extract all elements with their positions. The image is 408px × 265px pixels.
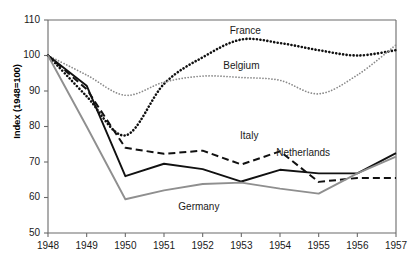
x-tick-label: 1954 bbox=[263, 240, 297, 251]
series-label-germany: Germany bbox=[178, 201, 219, 212]
x-tick-label: 1950 bbox=[108, 240, 142, 251]
series-line-netherlands bbox=[48, 56, 396, 182]
series-label-netherlands: Netherlands bbox=[276, 147, 330, 158]
y-tick-label: 50 bbox=[14, 227, 40, 238]
x-tick-label: 1951 bbox=[147, 240, 181, 251]
x-tick-label: 1955 bbox=[302, 240, 336, 251]
y-tick-label: 70 bbox=[14, 156, 40, 167]
x-tick-label: 1953 bbox=[224, 240, 258, 251]
y-tick-label: 110 bbox=[14, 14, 40, 25]
y-tick-label: 80 bbox=[14, 120, 40, 131]
x-tick-label: 1952 bbox=[186, 240, 220, 251]
series-line-belgium bbox=[48, 45, 396, 95]
x-tick-label: 1948 bbox=[31, 240, 65, 251]
chart-plot-area bbox=[0, 0, 408, 265]
series-label-france: France bbox=[230, 25, 261, 36]
y-tick-label: 90 bbox=[14, 85, 40, 96]
series-label-italy: Italy bbox=[240, 130, 258, 141]
series-line-france bbox=[48, 39, 396, 136]
x-tick-label: 1949 bbox=[70, 240, 104, 251]
x-tick-label: 1957 bbox=[379, 240, 408, 251]
chart-container: Index (1948=100) 50607080901001101948194… bbox=[0, 0, 408, 265]
x-tick-label: 1956 bbox=[340, 240, 374, 251]
axis-frame bbox=[48, 20, 396, 233]
y-tick-label: 60 bbox=[14, 191, 40, 202]
series-label-belgium: Belgium bbox=[223, 60, 259, 71]
y-tick-label: 100 bbox=[14, 49, 40, 60]
series-line-germany bbox=[48, 56, 396, 200]
